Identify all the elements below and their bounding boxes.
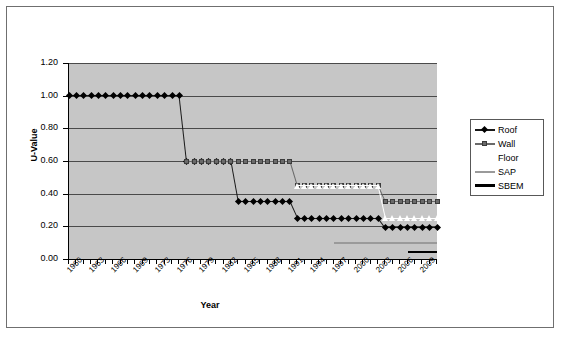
legend-label: Roof xyxy=(498,123,517,137)
data-point-wall xyxy=(398,199,403,204)
legend-symbol-sap-icon xyxy=(474,165,496,179)
legend-marker-floor-icon xyxy=(481,155,487,161)
data-point-roof xyxy=(352,215,359,222)
y-axis-title: U-Value xyxy=(29,105,39,185)
plot-area xyxy=(68,63,437,260)
data-point-wall xyxy=(243,159,248,164)
data-point-roof xyxy=(176,92,183,99)
data-point-floor xyxy=(353,183,359,189)
data-point-wall xyxy=(258,159,263,164)
data-point-roof xyxy=(308,215,315,222)
data-point-floor xyxy=(434,215,440,221)
data-point-roof xyxy=(249,198,256,205)
series-line-segment xyxy=(334,242,437,244)
gridline xyxy=(69,128,437,129)
data-point-roof xyxy=(124,92,131,99)
data-point-roof xyxy=(73,92,80,99)
y-tick-label: 0.60 xyxy=(24,156,58,165)
data-point-roof xyxy=(80,92,87,99)
data-point-floor xyxy=(411,215,417,221)
data-point-floor xyxy=(389,215,395,221)
legend-item-sbem[interactable]: SBEM xyxy=(474,179,541,193)
data-point-wall xyxy=(214,159,219,164)
data-point-wall xyxy=(390,199,395,204)
data-point-wall xyxy=(199,159,204,164)
data-point-roof xyxy=(397,224,404,231)
legend-marker-roof-icon xyxy=(481,126,488,133)
legend-item-floor[interactable]: Floor xyxy=(474,151,541,165)
data-point-floor xyxy=(301,183,307,189)
data-point-roof xyxy=(65,92,72,99)
data-point-roof xyxy=(117,92,124,99)
data-point-roof xyxy=(95,92,102,99)
data-point-roof xyxy=(433,224,440,231)
data-point-roof xyxy=(382,224,389,231)
legend-item-sap[interactable]: SAP xyxy=(474,165,541,179)
data-point-roof xyxy=(272,198,279,205)
y-tick-label: 0.40 xyxy=(24,189,58,198)
data-point-roof xyxy=(88,92,95,99)
data-point-roof xyxy=(154,92,161,99)
data-point-floor xyxy=(308,183,314,189)
data-point-floor xyxy=(338,183,344,189)
data-point-roof xyxy=(110,92,117,99)
y-tick-label: 0.20 xyxy=(24,221,58,230)
data-point-wall xyxy=(192,159,197,164)
data-point-wall xyxy=(236,159,241,164)
data-point-roof xyxy=(242,198,249,205)
data-point-roof xyxy=(235,198,242,205)
data-point-roof xyxy=(367,215,374,222)
gridline xyxy=(69,63,437,64)
data-point-roof xyxy=(168,92,175,99)
data-point-wall xyxy=(228,159,233,164)
data-point-wall xyxy=(405,199,410,204)
legend-label: Wall xyxy=(498,137,515,151)
data-point-floor xyxy=(382,215,388,221)
y-tick-label: 1.20 xyxy=(24,58,58,67)
legend-symbol-roof-icon xyxy=(474,123,496,137)
data-point-wall xyxy=(251,159,256,164)
data-point-roof xyxy=(257,198,264,205)
legend-symbol-floor-icon xyxy=(474,151,496,165)
series-line-segment xyxy=(408,251,437,253)
data-point-floor xyxy=(316,183,322,189)
data-point-wall xyxy=(184,159,189,164)
data-point-floor xyxy=(397,215,403,221)
data-point-floor xyxy=(367,183,373,189)
x-axis-title: Year xyxy=(150,300,270,310)
data-point-roof xyxy=(330,215,337,222)
chart-legend: RoofWallFloorSAPSBEM xyxy=(470,119,544,196)
data-point-roof xyxy=(139,92,146,99)
legend-marker-wall-icon xyxy=(482,141,487,146)
data-point-wall xyxy=(273,159,278,164)
legend-item-wall[interactable]: Wall xyxy=(474,137,541,151)
data-point-floor xyxy=(360,183,366,189)
legend-item-roof[interactable]: Roof xyxy=(474,123,541,137)
data-point-wall xyxy=(383,199,388,204)
data-point-floor xyxy=(404,215,410,221)
data-point-roof xyxy=(132,92,139,99)
data-point-wall xyxy=(427,199,432,204)
legend-label: SBEM xyxy=(498,179,524,193)
legend-label: SAP xyxy=(498,165,516,179)
y-tick-label: 1.00 xyxy=(24,91,58,100)
data-point-roof xyxy=(419,224,426,231)
data-point-floor xyxy=(375,183,381,189)
data-point-roof xyxy=(345,215,352,222)
data-point-wall xyxy=(265,159,270,164)
data-point-floor xyxy=(426,215,432,221)
data-point-floor xyxy=(294,183,300,189)
chart-root: U-Value 0.000.200.400.600.801.001.20 196… xyxy=(0,0,564,340)
data-point-roof xyxy=(161,92,168,99)
data-point-roof xyxy=(264,198,271,205)
data-point-floor xyxy=(330,183,336,189)
data-point-floor xyxy=(323,183,329,189)
data-point-roof xyxy=(146,92,153,99)
data-point-roof xyxy=(279,198,286,205)
series-line-segment xyxy=(230,161,238,202)
data-point-wall xyxy=(287,159,292,164)
y-tick-label: 0.00 xyxy=(24,254,58,263)
legend-label: Floor xyxy=(498,151,519,165)
legend-symbol-sbem-icon xyxy=(474,179,496,193)
data-point-floor xyxy=(345,183,351,189)
